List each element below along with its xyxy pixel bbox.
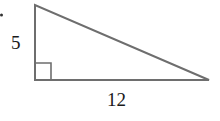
horizontal-leg-label: 12 [107,89,126,110]
right-triangle-diagram: 5 12 [0,0,220,121]
triangle-outline [35,5,209,80]
stray-dot [0,14,3,17]
vertical-leg-label: 5 [11,32,21,53]
right-angle-marker [35,63,51,80]
